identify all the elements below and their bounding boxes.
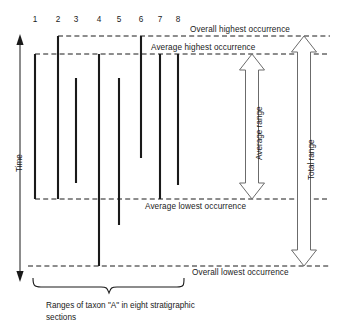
column-number-4: 4 bbox=[93, 15, 105, 24]
sections-brace bbox=[33, 278, 184, 293]
range-bars bbox=[35, 36, 178, 266]
label-overall-highest-occurrence: Overall highest occurrence bbox=[190, 25, 290, 35]
label-average-range: Average range bbox=[255, 106, 264, 160]
label-time-axis: Time bbox=[15, 154, 24, 172]
column-number-8: 8 bbox=[172, 15, 184, 24]
column-number-7: 7 bbox=[154, 15, 166, 24]
column-number-5: 5 bbox=[113, 15, 125, 24]
label-overall-lowest-occurrence: Overall lowest occurrence bbox=[192, 268, 289, 278]
label-average-highest-occurrence: Average highest occurrence bbox=[151, 43, 255, 53]
figure-caption: Ranges of taxon "A" in eight stratigraph… bbox=[46, 300, 196, 324]
stratigraphic-range-chart-figure: 1 2 3 4 5 6 7 8 Overall highest occurren… bbox=[0, 0, 338, 336]
column-number-3: 3 bbox=[70, 15, 82, 24]
column-number-2: 2 bbox=[52, 15, 64, 24]
column-number-6: 6 bbox=[135, 15, 147, 24]
column-number-1: 1 bbox=[29, 15, 41, 24]
label-average-lowest-occurrence: Average lowest occurrence bbox=[145, 202, 246, 212]
label-total-range: Total range bbox=[307, 139, 316, 180]
